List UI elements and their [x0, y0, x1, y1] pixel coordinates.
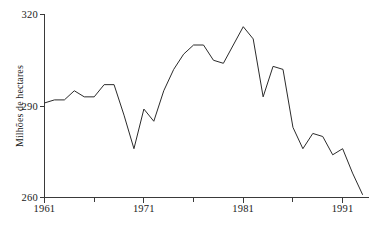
series-line-milhoes-de-hectares [45, 27, 363, 195]
line-chart-plot [0, 0, 379, 229]
x-axis-ticks [45, 198, 343, 203]
y-tick-label-320: 320 [22, 9, 38, 20]
x-tick-label-1971: 1971 [133, 203, 155, 214]
y-axis-ticks [40, 15, 45, 198]
x-tick-label-1961: 1961 [34, 203, 56, 214]
y-axis-title: Milhões de hectares [14, 65, 25, 147]
x-tick-label-1991: 1991 [332, 203, 354, 214]
chart-figure: 320 290 260 1961 1971 1981 1991 Milhões … [0, 0, 379, 229]
x-tick-label-1981: 1981 [232, 203, 254, 214]
y-tick-label-260: 260 [22, 192, 38, 203]
